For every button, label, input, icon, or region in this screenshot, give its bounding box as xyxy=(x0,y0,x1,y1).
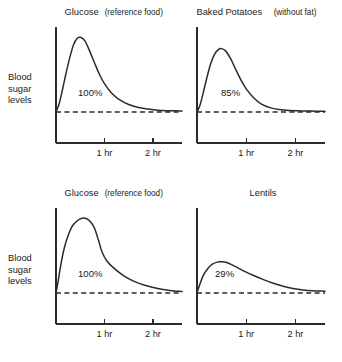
panel-title-main: Lentils xyxy=(250,188,277,198)
y-axis-label-line: levels xyxy=(8,95,32,105)
panel-glucose-bottom-value-label: 100% xyxy=(78,268,103,279)
y-axis-label-line: Blood xyxy=(8,253,32,263)
panel-lentils-title: Lentils xyxy=(250,188,277,198)
panel-lentils-value-label: 29% xyxy=(215,268,235,279)
y-axis-label-line: Blood xyxy=(8,72,32,82)
x-tick-label-1: 2 hr xyxy=(288,148,304,158)
panel-title-main: Baked Potatoes xyxy=(196,7,262,17)
y-axis-label-line: levels xyxy=(8,276,32,286)
panel-baked-potatoes: Baked Potatoes(without fat)1 hr2 hr85% xyxy=(196,7,325,158)
y-axis-label-line: sugar xyxy=(8,84,31,94)
figure-canvas: Glucose(reference food)Bloodsugarlevels1… xyxy=(0,0,342,362)
panel-baked-potatoes-value-label: 85% xyxy=(221,87,241,98)
panel-title-sub: (reference food) xyxy=(105,8,164,17)
panel-glucose-bottom-curve xyxy=(56,218,182,293)
panel-glucose-top-title: Glucose(reference food) xyxy=(65,7,164,17)
panel-glucose-bottom-y-axis-label: Bloodsugarlevels xyxy=(8,253,32,286)
panel-title-main: Glucose xyxy=(65,7,99,17)
x-tick-label-1: 2 hr xyxy=(288,329,304,339)
panel-glucose-top-value-label: 100% xyxy=(78,87,103,98)
x-tick-label-0: 1 hr xyxy=(97,148,113,158)
x-tick-label-1: 2 hr xyxy=(145,148,161,158)
panel-baked-potatoes-title: Baked Potatoes(without fat) xyxy=(196,7,316,17)
panel-title-main: Glucose xyxy=(65,188,99,198)
x-tick-label-0: 1 hr xyxy=(238,329,254,339)
panel-glucose-bottom: Glucose(reference food)Bloodsugarlevels1… xyxy=(8,188,182,339)
x-tick-label-0: 1 hr xyxy=(97,329,113,339)
panel-glucose-top-curve xyxy=(56,37,182,112)
x-tick-label-0: 1 hr xyxy=(238,148,254,158)
panel-glucose-top: Glucose(reference food)Bloodsugarlevels1… xyxy=(8,7,182,158)
panel-baked-potatoes-curve xyxy=(197,49,325,112)
y-axis-label-line: sugar xyxy=(8,265,31,275)
panel-glucose-bottom-title: Glucose(reference food) xyxy=(65,188,164,198)
panel-title-sub: (without fat) xyxy=(274,8,317,17)
x-tick-label-1: 2 hr xyxy=(145,329,161,339)
glycemic-index-figure: Glucose(reference food)Bloodsugarlevels1… xyxy=(0,0,342,362)
panel-title-sub: (reference food) xyxy=(105,189,164,198)
panel-glucose-top-y-axis-label: Bloodsugarlevels xyxy=(8,72,32,105)
panel-lentils: Lentils1 hr2 hr29% xyxy=(197,188,325,339)
